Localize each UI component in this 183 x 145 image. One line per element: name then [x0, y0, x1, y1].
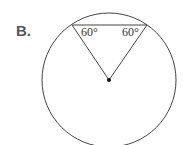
circle-triangle-diagram: 60° 60° — [0, 0, 183, 145]
angle-label-left: 60° — [81, 25, 98, 39]
angle-label-right: 60° — [122, 25, 139, 39]
center-point — [107, 78, 111, 82]
